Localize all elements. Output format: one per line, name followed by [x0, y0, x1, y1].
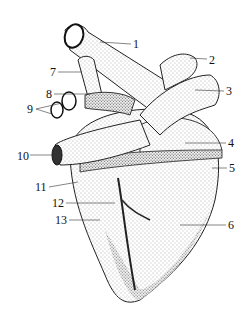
label-10: 10 [17, 150, 29, 162]
label-3: 3 [226, 85, 232, 97]
label-6: 6 [228, 219, 234, 231]
vessel-10-opening [52, 145, 62, 165]
label-7: 7 [50, 66, 56, 78]
opening-9a [62, 92, 76, 110]
label-13: 13 [55, 214, 67, 226]
label-8: 8 [46, 88, 52, 100]
label-2: 2 [209, 54, 215, 66]
label-12: 12 [52, 197, 64, 209]
heart-diagram [0, 0, 251, 325]
label-5: 5 [229, 162, 235, 174]
label-1: 1 [133, 38, 139, 50]
label-9: 9 [27, 103, 33, 115]
vessel-8 [85, 92, 135, 115]
label-11: 11 [35, 181, 47, 193]
label-4: 4 [228, 137, 234, 149]
